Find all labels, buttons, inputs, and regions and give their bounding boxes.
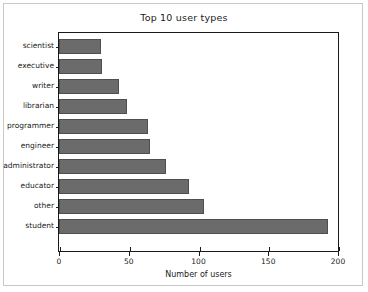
x-axis-tick-label-50: 50: [124, 257, 134, 266]
bar-administrator: [59, 159, 166, 174]
chart-figure: Top 10 user types scientistexecutivewrit…: [0, 0, 368, 292]
y-tick-scientist: [56, 47, 59, 48]
y-axis-label-scientist: scientist: [0, 41, 54, 50]
x-axis-tick-label-200: 200: [331, 257, 345, 266]
y-tick-engineer: [56, 147, 59, 148]
chart-title: Top 10 user types: [0, 12, 368, 23]
y-axis-label-administrator: administrator: [0, 161, 54, 170]
bar-executive: [59, 59, 102, 74]
bar-student: [59, 219, 328, 234]
y-tick-programmer: [56, 127, 59, 128]
x-axis-tick-label-100: 100: [191, 257, 205, 266]
bar-scientist: [59, 39, 101, 54]
y-axis-label-programmer: programmer: [0, 121, 54, 130]
x-tick-50: [129, 252, 130, 256]
y-axis-labels: scientistexecutivewriterlibrarianprogram…: [0, 32, 54, 252]
y-axis-label-librarian: librarian: [0, 101, 54, 110]
y-tick-writer: [56, 87, 59, 88]
y-tick-other: [56, 207, 59, 208]
x-axis-title: Number of users: [58, 270, 339, 279]
y-tick-educator: [56, 187, 59, 188]
x-axis: 050100150200: [58, 252, 339, 272]
x-tick-150: [268, 252, 269, 256]
bar-programmer: [59, 119, 148, 134]
x-tick-0: [59, 252, 60, 256]
bar-other: [59, 199, 204, 214]
y-axis-label-engineer: engineer: [0, 141, 54, 150]
x-axis-tick-label-0: 0: [57, 257, 62, 266]
x-tick-100: [199, 252, 200, 256]
y-axis-label-other: other: [0, 201, 54, 210]
y-axis-label-executive: executive: [0, 61, 54, 70]
x-tick-200: [338, 252, 339, 256]
x-tick-inner-100: [200, 247, 201, 251]
y-tick-executive: [56, 67, 59, 68]
x-tick-inner-50: [130, 247, 131, 251]
y-axis-label-educator: educator: [0, 181, 54, 190]
bar-writer: [59, 79, 119, 94]
y-tick-student: [56, 227, 59, 228]
bar-series: [59, 33, 338, 251]
bar-engineer: [59, 139, 150, 154]
y-axis-label-writer: writer: [0, 81, 54, 90]
bar-librarian: [59, 99, 127, 114]
y-axis-label-student: student: [0, 221, 54, 230]
bar-educator: [59, 179, 189, 194]
plot-area: [58, 32, 339, 252]
x-tick-inner-150: [269, 247, 270, 251]
y-tick-administrator: [56, 167, 59, 168]
y-tick-librarian: [56, 107, 59, 108]
x-axis-tick-label-150: 150: [261, 257, 275, 266]
x-tick-inner-0: [60, 247, 61, 251]
x-tick-inner-200: [339, 247, 340, 251]
